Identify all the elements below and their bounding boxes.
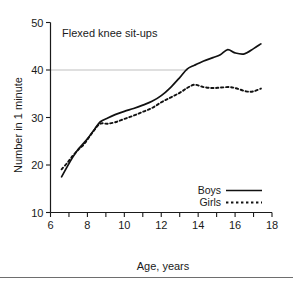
bottom-divider (0, 277, 293, 278)
x-tick-label: 12 (155, 219, 167, 231)
figure-container: 1020304050 681012141618 Flexed knee sit-… (0, 0, 293, 286)
y-tick-marks (46, 23, 51, 213)
line-chart: 1020304050 681012141618 Flexed knee sit-… (0, 0, 293, 286)
x-tick-label: 16 (229, 219, 241, 231)
x-tick-labels: 681012141618 (47, 219, 278, 231)
legend-label-girls: Girls (199, 196, 221, 208)
x-tick-label: 14 (192, 219, 204, 231)
legend: Boys Girls (198, 184, 262, 208)
x-tick-marks (51, 213, 273, 218)
y-tick-label: 10 (31, 207, 43, 219)
x-tick-label: 8 (84, 219, 90, 231)
y-axis: 1020304050 (31, 17, 50, 219)
series-line-girls (62, 85, 261, 170)
y-tick-labels: 1020304050 (31, 17, 43, 219)
x-axis-title: Age, years (137, 260, 190, 272)
chart-title: Flexed knee sit-ups (62, 27, 158, 39)
y-axis-title: Number in 1 minute (12, 77, 24, 173)
y-tick-label: 50 (31, 17, 43, 29)
x-axis: 681012141618 (47, 213, 278, 231)
y-tick-label: 20 (31, 159, 43, 171)
series-line-boys (62, 44, 261, 177)
x-tick-label: 10 (118, 219, 130, 231)
x-tick-label: 6 (47, 219, 53, 231)
y-tick-label: 30 (31, 112, 43, 124)
x-tick-label: 18 (266, 219, 278, 231)
y-tick-label: 40 (31, 64, 43, 76)
legend-label-boys: Boys (198, 184, 221, 196)
plot-series (62, 44, 261, 177)
